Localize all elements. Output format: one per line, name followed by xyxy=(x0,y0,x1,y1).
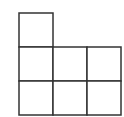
grid-cell-r1-c1 xyxy=(53,47,87,81)
grid-cell-r0-c0 xyxy=(19,13,53,47)
grid-cell-r1-c2 xyxy=(87,47,121,81)
grid-cell-r2-c2 xyxy=(87,81,121,115)
grid-cell-r2-c0 xyxy=(19,81,53,115)
grid-cell-r1-c0 xyxy=(19,47,53,81)
grid-cell-r2-c1 xyxy=(53,81,87,115)
grid-cells xyxy=(19,13,121,115)
polyomino-diagram xyxy=(0,0,124,117)
